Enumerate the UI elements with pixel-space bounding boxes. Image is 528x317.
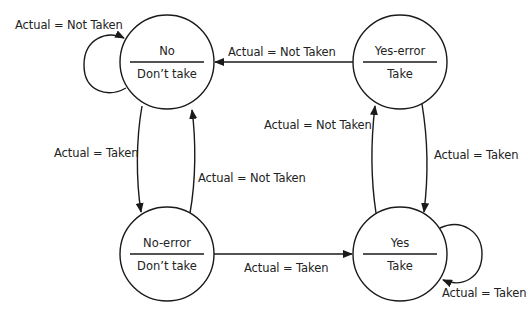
label-yes-to-yes-error: Actual = Not Taken (264, 118, 372, 132)
transition-no-error-to-no (190, 110, 195, 213)
state-no-error-name: No-error (112, 236, 222, 250)
state-yes-output: Take (345, 259, 455, 273)
state-yes-name: Yes (345, 236, 455, 250)
state-yes-error-output: Take (345, 67, 455, 81)
state-yes-error-name: Yes-error (345, 44, 455, 58)
transition-yes-error-to-yes (422, 104, 427, 212)
label-no-error-to-no: Actual = Not Taken (198, 171, 306, 185)
state-no-output: Don’t take (112, 67, 222, 81)
label-yes-self: Actual = Taken (442, 286, 526, 300)
state-no-name: No (112, 44, 222, 58)
label-no-self: Actual = Not Taken (15, 18, 123, 32)
state-no-error-output: Don’t take (112, 259, 222, 273)
label-yes-error-to-yes: Actual = Taken (434, 148, 518, 162)
label-no-error-to-yes: Actual = Taken (244, 261, 328, 275)
label-yes-error-to-no: Actual = Not Taken (228, 45, 336, 59)
transition-yes-to-yes-error (372, 106, 376, 213)
label-no-to-no-error: Actual = Taken (54, 146, 138, 160)
